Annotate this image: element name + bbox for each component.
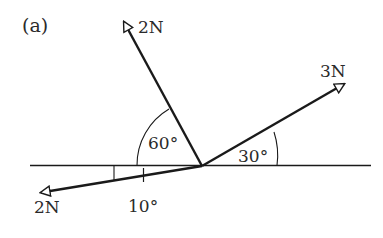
angle-30-label: 30° (238, 146, 268, 166)
figure-label: (a) (22, 14, 48, 36)
force-bottom-left-label: 2N (34, 197, 60, 217)
force-top-label: 2N (138, 17, 164, 37)
force-right-label: 3N (320, 61, 346, 81)
angle-10-label: 10° (128, 196, 158, 216)
force-bottom-left-arrow (41, 166, 202, 193)
angle-30-arc (274, 132, 278, 166)
force-right-arrow (202, 84, 344, 166)
force-diagram: (a) 2N 3N 2N 60° 30° 10° (0, 0, 383, 238)
angle-60-label: 60° (148, 133, 178, 153)
